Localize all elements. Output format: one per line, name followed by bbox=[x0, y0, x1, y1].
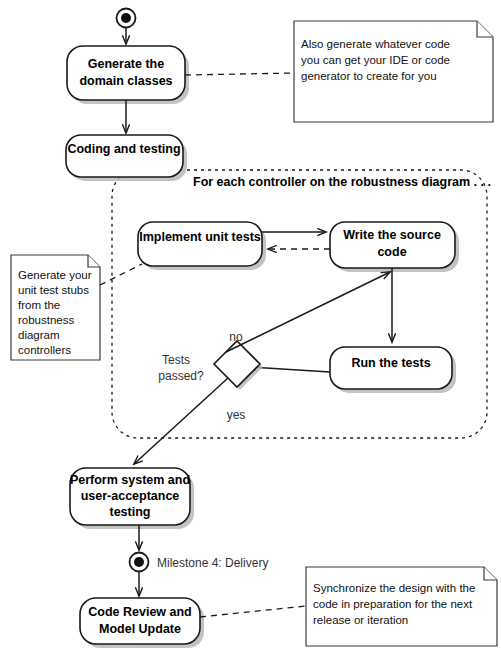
note-unit-test-stubs: Generate your unit test stubs from the r… bbox=[11, 255, 100, 360]
perform-system-testing-line-3: testing bbox=[110, 505, 151, 519]
note-generate-code-line-1: Also generate whatever code bbox=[301, 38, 450, 50]
note-synchronize-design: Synchronize the design with the code in … bbox=[306, 567, 497, 646]
implement-unit-tests-line-1: Implement unit tests bbox=[139, 230, 261, 244]
initial-node bbox=[117, 9, 136, 45]
activity-write-the-source-code[interactable]: Write the source code bbox=[330, 222, 459, 272]
note-unit-test-stubs-line-1: Generate your bbox=[18, 269, 92, 281]
tests-passed-diamond[interactable] bbox=[214, 341, 260, 387]
milestone-node-dot bbox=[134, 557, 144, 567]
note-link-generate-code bbox=[185, 73, 294, 75]
activity-generate-domain-classes[interactable]: Generate the domain classes bbox=[67, 46, 189, 104]
activity-implement-unit-tests[interactable]: Implement unit tests bbox=[138, 222, 266, 270]
note-synchronize-design-line-3: release or iteration bbox=[313, 614, 408, 626]
coding-and-testing-line-1: Coding and testing bbox=[67, 142, 180, 156]
note-generate-code-line-2: you can get your IDE or code bbox=[301, 54, 450, 66]
tests-passed-line-2: passed? bbox=[158, 369, 204, 383]
activity-run-the-tests[interactable]: Run the tests bbox=[330, 347, 456, 393]
activity-coding-and-testing[interactable]: Coding and testing bbox=[66, 135, 187, 181]
note-generate-code: Also generate whatever code you can get … bbox=[294, 21, 493, 122]
run-the-tests-line-1: Run the tests bbox=[351, 356, 430, 370]
generate-domain-classes-line-2: domain classes bbox=[79, 74, 172, 88]
iteration-region-label: For each controller on the robustness di… bbox=[193, 175, 491, 189]
note-unit-test-stubs-line-5: diagram bbox=[18, 329, 60, 341]
initial-node-dot bbox=[121, 13, 131, 23]
activity-diagram: For each controller on the robustness di… bbox=[0, 0, 501, 654]
guard-label-yes: yes bbox=[227, 408, 246, 422]
note-generate-code-line-3: generator to create for you bbox=[301, 70, 437, 82]
decision-tests-passed[interactable]: Tests passed? bbox=[158, 341, 263, 390]
write-the-source-code-line-1: Write the source bbox=[343, 228, 441, 242]
note-synchronize-design-fold bbox=[484, 567, 497, 580]
note-unit-test-stubs-line-4: robustness bbox=[18, 314, 75, 326]
note-synchronize-design-line-1: Synchronize the design with the bbox=[313, 582, 475, 594]
generate-domain-classes-line-1: Generate the bbox=[88, 57, 164, 71]
note-unit-test-stubs-line-2: unit test stubs bbox=[18, 284, 89, 296]
note-unit-test-stubs-line-6: controllers bbox=[18, 344, 71, 356]
note-unit-test-stubs-line-3: from the bbox=[18, 299, 60, 311]
iteration-region-border bbox=[112, 170, 487, 438]
milestone-4-node: Milestone 4: Delivery bbox=[130, 553, 269, 572]
perform-system-testing-line-2: user-acceptance bbox=[81, 489, 180, 503]
milestone-node-label: Milestone 4: Delivery bbox=[157, 556, 268, 570]
iteration-region: For each controller on the robustness di… bbox=[112, 170, 491, 438]
perform-system-testing-line-1: Perform system and bbox=[70, 473, 190, 487]
tests-passed-line-1: Tests bbox=[162, 353, 190, 367]
note-link-unit-test-stubs bbox=[100, 264, 142, 285]
generate-domain-classes-box[interactable] bbox=[67, 46, 185, 100]
code-review-model-update-line-2: Model Update bbox=[99, 622, 181, 636]
diagram-canvas: For each controller on the robustness di… bbox=[0, 0, 501, 654]
flow-decision-yes-to-perform bbox=[134, 378, 228, 464]
guard-label-no: no bbox=[229, 330, 243, 344]
write-the-source-code-line-2: code bbox=[377, 245, 406, 259]
activity-code-review-model-update[interactable]: Code Review and Model Update bbox=[80, 598, 204, 648]
flow-decision-no-to-write bbox=[226, 272, 390, 352]
code-review-model-update-line-1: Code Review and bbox=[88, 605, 192, 619]
note-synchronize-design-line-2: code in preparation for the next bbox=[313, 598, 473, 610]
note-link-synchronize-design bbox=[200, 606, 306, 617]
activity-perform-system-testing[interactable]: Perform system and user-acceptance testi… bbox=[70, 468, 194, 529]
